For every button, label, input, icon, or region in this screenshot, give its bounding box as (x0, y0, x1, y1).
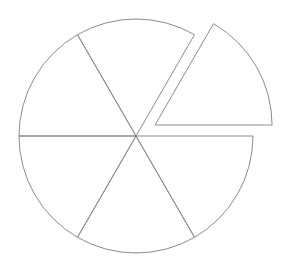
pie-slice-1[interactable] (78, 19, 195, 136)
pie-chart-svg (0, 0, 288, 261)
pie-slice-3[interactable] (19, 136, 136, 237)
pie-slice-4[interactable] (78, 136, 195, 253)
pie-slices-group (19, 19, 272, 253)
pie-chart-figure (0, 0, 288, 261)
pie-slice-0[interactable] (155, 24, 272, 125)
pie-slice-2[interactable] (19, 35, 136, 136)
pie-slice-5[interactable] (136, 136, 253, 237)
